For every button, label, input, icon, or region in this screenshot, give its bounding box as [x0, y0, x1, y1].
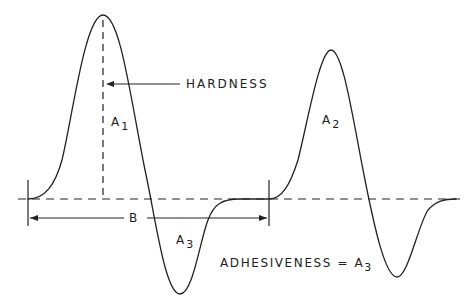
area-a3-label: A3 [176, 233, 193, 247]
area-a2-subscript: 2 [332, 118, 339, 131]
hardness-label: HARDNESS [186, 77, 269, 91]
area-a2-label: A2 [322, 113, 339, 127]
adhesiveness-main: ADHESIVENESS = A [220, 256, 364, 270]
b-arrowhead-right [259, 215, 267, 221]
b-arrowhead-left [30, 215, 38, 221]
tpa-diagram: HARDNESS A1 A2 A3 B ADHESIVENESS = A3 [0, 0, 469, 308]
area-a2-main: A [322, 113, 332, 127]
area-a1-subscript: 1 [121, 120, 128, 133]
adhesiveness-label: ADHESIVENESS = A3 [220, 256, 371, 270]
area-a3-main: A [176, 233, 186, 247]
adhesiveness-subscript: 3 [364, 261, 371, 274]
b-label: B [129, 211, 139, 225]
first-compression-curve [28, 15, 269, 294]
area-a1-label: A1 [111, 115, 128, 129]
area-a3-subscript: 3 [186, 238, 193, 251]
second-compression-curve [269, 50, 456, 277]
area-a1-main: A [111, 115, 121, 129]
hardness-arrowhead [106, 81, 114, 87]
